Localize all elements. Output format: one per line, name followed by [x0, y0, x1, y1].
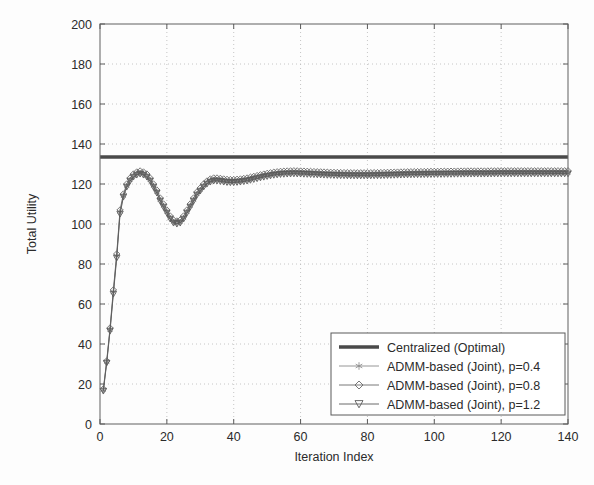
x-tick-label: 140	[558, 430, 579, 444]
y-tick-label: 120	[71, 178, 92, 192]
y-tick-label: 160	[71, 98, 92, 112]
x-tick-label: 20	[160, 430, 174, 444]
x-tick-label: 0	[97, 430, 104, 444]
y-tick-label: 140	[71, 138, 92, 152]
chart-canvas: 0204060801001201400204060801001201401601…	[0, 0, 594, 485]
x-axis-title: Iteration Index	[294, 450, 374, 464]
legend-label: ADMM-based (Joint), p=1.2	[387, 398, 540, 412]
x-tick-label: 100	[424, 430, 445, 444]
x-tick-label: 40	[227, 430, 241, 444]
chart-figure: 0204060801001201400204060801001201401601…	[0, 0, 594, 485]
legend-label: ADMM-based (Joint), p=0.8	[387, 379, 540, 393]
y-tick-label: 100	[71, 218, 92, 232]
y-tick-label: 0	[85, 418, 92, 432]
x-tick-label: 120	[491, 430, 512, 444]
y-tick-label: 80	[78, 258, 92, 272]
y-tick-label: 60	[78, 298, 92, 312]
y-axis-title: Total Utility	[25, 193, 39, 254]
legend-label: Centralized (Optimal)	[387, 341, 505, 355]
y-tick-label: 180	[71, 58, 92, 72]
y-tick-label: 200	[71, 18, 92, 32]
y-tick-label: 40	[78, 338, 92, 352]
x-tick-label: 80	[360, 430, 374, 444]
legend-label: ADMM-based (Joint), p=0.4	[387, 360, 540, 374]
legend: Centralized (Optimal)ADMM-based (Joint),…	[331, 333, 565, 415]
x-tick-label: 60	[294, 430, 308, 444]
y-tick-label: 20	[78, 378, 92, 392]
